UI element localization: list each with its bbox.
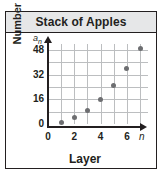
gridline-horizontal	[48, 87, 148, 88]
y-tick-label: 0	[22, 119, 44, 129]
gridline-horizontal	[48, 112, 148, 113]
data-point	[98, 97, 103, 102]
y-axis-line	[47, 42, 49, 127]
data-point	[124, 66, 129, 71]
plot-area	[48, 44, 148, 124]
y-tick-label: 16	[22, 94, 44, 104]
x-tick-label: 4	[93, 131, 109, 142]
gridline-vertical	[74, 44, 75, 124]
x-axis-label: Layer	[40, 152, 130, 166]
data-point	[72, 115, 77, 120]
gridline-vertical	[101, 44, 102, 124]
y-tick-label: 48	[22, 45, 44, 55]
gridline-horizontal	[48, 75, 148, 76]
gridline-vertical	[140, 44, 141, 124]
y-tick-label: 32	[22, 70, 44, 80]
chart-title: Stack of Apples	[35, 15, 126, 29]
x-tick-labels: 0246	[0, 131, 162, 145]
x-axis-arrowhead	[140, 123, 147, 131]
data-point	[138, 46, 143, 51]
x-tick-label: 6	[119, 131, 135, 142]
gridline-horizontal	[48, 50, 148, 51]
x-axis-line	[47, 126, 141, 128]
y-axis-arrowhead	[44, 36, 52, 43]
data-point	[59, 120, 64, 125]
data-point	[85, 108, 90, 113]
chart-figure: Stack of Apples Number of apples Layer a…	[0, 0, 162, 181]
y-tick-labels: 0163248	[20, 0, 44, 181]
gridline-vertical	[61, 44, 62, 124]
x-tick-label: 0	[40, 131, 56, 142]
x-tick-label: 2	[66, 131, 82, 142]
gridline-horizontal	[48, 62, 148, 63]
gridline-vertical	[127, 44, 128, 124]
